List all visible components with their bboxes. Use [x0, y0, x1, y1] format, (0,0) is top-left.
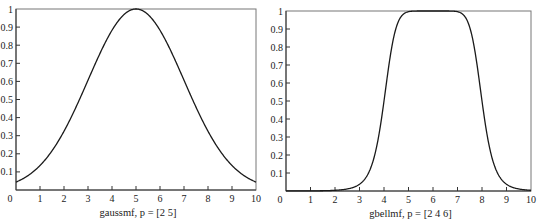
y-tick-label: 0.8	[271, 42, 284, 53]
x-tick-label: 5	[134, 193, 139, 204]
x-tick-label: 7	[455, 194, 460, 205]
y-tick-label: 0.4	[271, 114, 284, 125]
y-tick-label: 0.6	[271, 78, 284, 89]
x-tick-label: 5	[406, 194, 411, 205]
y-tick-label: 0.8	[1, 40, 14, 51]
y-tick-label: 0.9	[271, 24, 284, 35]
x-tick-label: 6	[431, 194, 436, 205]
x-tick-label: 8	[480, 194, 485, 205]
y-tick-label: 0.3	[271, 132, 284, 143]
y-tick-label: 0.5	[1, 94, 14, 105]
gaussmf-plot: 0123456789100.10.20.30.40.50.60.70.80.91…	[1, 4, 262, 219]
x-tick-label: 4	[110, 193, 115, 204]
y-tick-label: 1	[278, 6, 283, 17]
chart-canvas: 0123456789100.10.20.30.40.50.60.70.80.91…	[0, 0, 543, 222]
x-tick-label: 6	[158, 193, 163, 204]
y-tick-label: 0.1	[271, 168, 284, 179]
x-axis-label: gbellmf, p = [2 4 6]	[369, 208, 451, 219]
x-tick-label: 9	[230, 193, 235, 204]
x-tick-label: 10	[251, 193, 261, 204]
y-tick-label: 0.5	[271, 96, 284, 107]
y-tick-label: 0.2	[1, 148, 14, 159]
y-tick-label: 0.1	[1, 166, 14, 177]
x-tick-label: 2	[62, 193, 67, 204]
x-tick-label: 3	[357, 194, 362, 205]
y-tick-label: 0.6	[1, 76, 14, 87]
x-tick-label: 1	[38, 193, 43, 204]
y-tick-label: 0.4	[1, 112, 14, 123]
membership-curve	[16, 9, 256, 182]
y-tick-label: 0.7	[271, 60, 284, 71]
axes-frame	[16, 9, 256, 190]
y-tick-label: 0.2	[271, 150, 284, 161]
y-tick-label: 0.7	[1, 58, 14, 69]
x-axis-label: gaussmf, p = [2 5]	[100, 207, 177, 218]
x-tick-label: 2	[333, 194, 338, 205]
x-tick-label: 8	[206, 193, 211, 204]
y-tick-label: 0.9	[1, 22, 14, 33]
gbellmf-plot: 0123456789100.10.20.30.40.50.60.70.80.91…	[271, 6, 537, 220]
x-tick-label: 4	[382, 194, 387, 205]
x-tick-label: 3	[86, 193, 91, 204]
x-tick-label: 0	[278, 194, 283, 205]
x-tick-label: 1	[308, 194, 313, 205]
x-tick-label: 9	[504, 194, 509, 205]
x-tick-label: 7	[182, 193, 187, 204]
y-tick-label: 1	[8, 4, 13, 15]
x-tick-label: 10	[526, 194, 536, 205]
x-tick-label: 0	[8, 193, 13, 204]
membership-curve	[286, 11, 531, 191]
y-tick-label: 0.3	[1, 130, 14, 141]
